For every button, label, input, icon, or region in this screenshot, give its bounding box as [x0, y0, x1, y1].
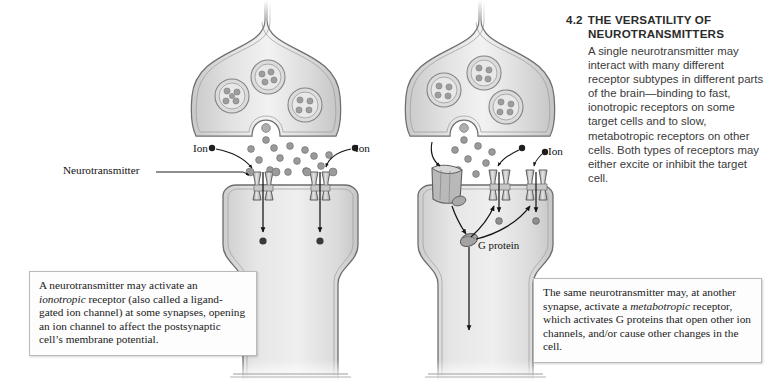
label-g-protein: G protein	[478, 239, 519, 251]
figure-canvas: Neurotransmitter Ion Ion Ion G protein 4…	[0, 0, 773, 381]
ion-leader-arrow	[498, 150, 519, 166]
caption-left-emphasis: ionotropic	[39, 293, 86, 305]
neurotransmitter-dots	[248, 137, 333, 176]
figure-title-line2: NEUROTRANSMITTERS	[588, 27, 766, 41]
ion-dot	[533, 218, 540, 225]
label-neurotransmitter: Neurotransmitter	[63, 164, 139, 176]
synaptic-vesicle	[427, 73, 461, 107]
figure-title-line1: THE VERSATILITY OF	[588, 13, 712, 26]
neurotransmitter-leader	[156, 172, 249, 175]
ion-dot	[259, 237, 266, 244]
fusing-vesicle	[460, 124, 469, 133]
label-ion-mid: Ion	[355, 142, 370, 154]
synaptic-vesicle	[215, 79, 249, 113]
caption-right-emphasis: metabotropic	[630, 300, 690, 312]
synaptic-vesicle	[489, 90, 523, 124]
ion-dot	[316, 237, 323, 244]
figure-body-text: A single neurotransmitter may interact w…	[588, 44, 766, 185]
ion-dot	[209, 145, 215, 151]
synaptic-vesicle	[467, 56, 501, 90]
fusing-vesicle	[262, 124, 271, 133]
caption-ionotropic: A neurotransmitter may activate an ionot…	[29, 271, 257, 356]
label-ion-left: Ion	[193, 142, 208, 154]
transmitter-binding-arrow	[431, 142, 440, 166]
caption-left-part1: A neurotransmitter may activate an	[39, 279, 198, 291]
caption-metabotropic: The same neurotransmitter may, at anothe…	[533, 278, 762, 363]
synaptic-vesicle	[251, 60, 285, 94]
figure-title: 4.2THE VERSATILITY OF NEUROTRANSMITTERS	[566, 13, 766, 41]
figure-text-panel: 4.2THE VERSATILITY OF NEUROTRANSMITTERS …	[566, 13, 766, 185]
label-ion-right: Ion	[548, 145, 563, 157]
figure-number: 4.2	[566, 13, 583, 26]
ion-dot	[519, 145, 525, 151]
ion-leader-arrow	[534, 154, 542, 166]
ion-leader-arrow	[216, 149, 252, 168]
synaptic-vesicle	[288, 88, 322, 122]
ion-dot	[496, 218, 503, 225]
